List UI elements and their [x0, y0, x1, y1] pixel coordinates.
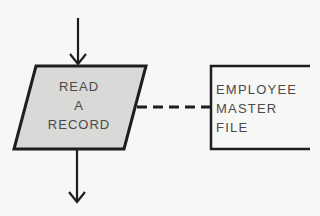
employee-master-file-label: EMPLOYEE MASTER FILE	[216, 80, 297, 137]
file-line-1: EMPLOYEE	[216, 80, 297, 99]
read-record-label: READ A RECORD	[40, 77, 118, 134]
incoming-arrow	[70, 18, 86, 64]
file-line-3: FILE	[216, 118, 297, 137]
label-line-3: RECORD	[40, 115, 118, 134]
label-line-1: READ	[40, 77, 118, 96]
file-line-2: MASTER	[216, 99, 297, 118]
label-line-2: A	[40, 96, 118, 115]
outgoing-arrow	[69, 150, 85, 202]
